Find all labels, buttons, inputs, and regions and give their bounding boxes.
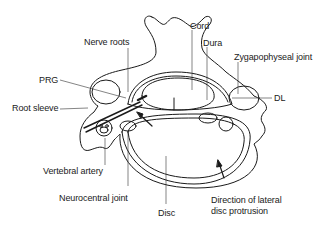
vertebral-disc — [122, 114, 250, 184]
right-vertebral-foramen — [219, 117, 233, 131]
root-sleeve — [84, 102, 142, 132]
label-disc: Disc — [158, 208, 175, 218]
label-root-sleeve: Root sleeve — [12, 103, 58, 113]
label-neurocentral-joint: Neurocentral joint — [59, 193, 128, 203]
label-dura: Dura — [203, 38, 222, 48]
label-nerve-roots: Nerve roots — [84, 37, 129, 47]
label-vertebral-artery: Vertebral artery — [43, 166, 103, 176]
disc-inner — [128, 118, 244, 178]
spinal-cord — [142, 78, 214, 110]
leader-root-sleeve — [60, 108, 88, 109]
label-prg: PRG — [39, 75, 58, 85]
label-dl: DL — [274, 93, 285, 103]
label-direction-line1: Direction of lateral — [211, 195, 282, 205]
vertebral-artery — [100, 127, 108, 133]
label-zygapophyseal-joint: Zygapophyseal joint — [234, 52, 312, 62]
label-direction-line2: disc protrusion — [211, 206, 268, 216]
left-zygapophyseal-joint — [92, 80, 120, 104]
left-vertebral-foramen — [96, 120, 112, 136]
label-cord: Cord — [190, 21, 209, 31]
left-neurocentral-joint — [120, 121, 136, 131]
